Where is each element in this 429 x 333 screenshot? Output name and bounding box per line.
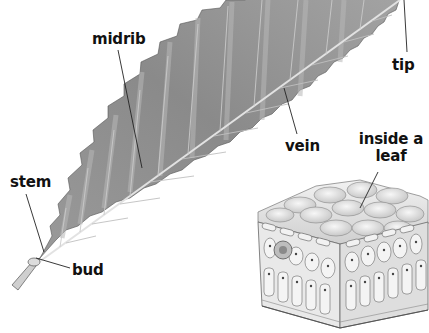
tip-leader-line (404, 0, 407, 52)
bud-leader-line (36, 258, 70, 268)
label-inside-a-leaf-line2: leaf (352, 148, 429, 165)
label-stem: stem (10, 174, 51, 191)
leaf-diagram: midrib tip vein inside a leaf stem bud (0, 0, 429, 333)
leaf-illustration (0, 0, 429, 333)
label-vein: vein (285, 138, 320, 155)
stem-leader-line (26, 194, 44, 252)
vascular-bundle (274, 241, 292, 259)
bud (28, 258, 40, 266)
label-inside-a-leaf: inside a leaf (352, 131, 429, 165)
label-bud: bud (72, 262, 104, 279)
label-midrib: midrib (92, 31, 146, 48)
label-tip: tip (392, 57, 414, 74)
label-inside-a-leaf-line1: inside a (352, 131, 429, 148)
cell-block-cross-section (258, 180, 428, 328)
stem (12, 258, 40, 290)
